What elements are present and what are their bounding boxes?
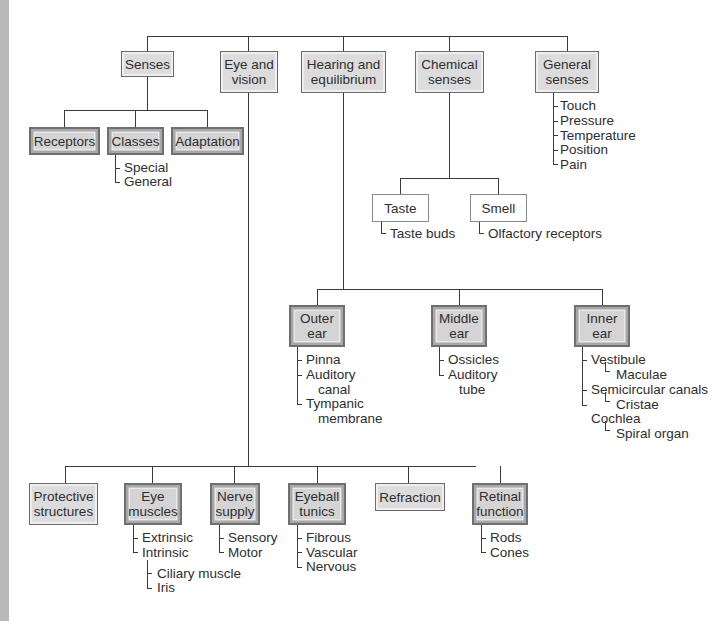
node-label: Eye andvision bbox=[224, 57, 274, 87]
node-label: Nervesupply bbox=[215, 489, 254, 519]
item-pressure: Pressure bbox=[554, 113, 614, 128]
item-auditory-tube-cont: tube bbox=[459, 382, 485, 397]
node-label: Adaptation bbox=[175, 134, 240, 149]
node-label: Senses bbox=[125, 57, 170, 72]
left-page-edge bbox=[0, 0, 9, 621]
node-label: Chemicalsenses bbox=[421, 57, 477, 87]
node-label: Retinalfunction bbox=[476, 489, 523, 519]
node-senses: Senses bbox=[121, 51, 174, 77]
item-intrinsic: Intrinsic bbox=[142, 545, 189, 560]
item-temperature: Temperature bbox=[554, 128, 636, 143]
node-hearing-and-equilibrium: Hearing andequilibrium bbox=[301, 51, 386, 93]
item-tympanic-membrane-cont: membrane bbox=[318, 411, 383, 426]
item-olfactory-receptors: Olfactory receptors bbox=[488, 226, 602, 241]
node-label: Eyemuscles bbox=[128, 489, 178, 519]
item-taste-buds: Taste buds bbox=[390, 226, 455, 241]
item-iris: Iris bbox=[157, 580, 175, 595]
node-label: Smell bbox=[482, 201, 516, 216]
node-eyeball-tunics: Eyeballtunics bbox=[288, 483, 346, 525]
item-extrinsic: Extrinsic bbox=[142, 530, 193, 545]
item-rods: Rods bbox=[490, 530, 522, 545]
item-semicircular-canals: Semicircular canals bbox=[591, 382, 708, 397]
item-cones: Cones bbox=[490, 545, 529, 560]
node-label: Classes bbox=[111, 134, 159, 149]
node-label: Taste bbox=[384, 201, 416, 216]
node-nerve-supply: Nervesupply bbox=[210, 483, 260, 525]
node-label: Receptors bbox=[34, 134, 96, 149]
item-ossicles: Ossicles bbox=[448, 352, 499, 367]
node-label: Outerear bbox=[300, 311, 334, 341]
node-chemical-senses: Chemicalsenses bbox=[415, 51, 484, 93]
item-auditory-tube: Auditory bbox=[448, 367, 498, 382]
node-inner-ear: Innerear bbox=[574, 305, 630, 347]
node-label: Innerear bbox=[587, 311, 618, 341]
item-motor: Motor bbox=[228, 545, 263, 560]
node-receptors: Receptors bbox=[29, 127, 100, 155]
item-special: Special bbox=[124, 160, 168, 175]
node-label: Eyeballtunics bbox=[295, 489, 339, 519]
item-auditory-canal: Auditory bbox=[306, 367, 356, 382]
item-pinna: Pinna bbox=[306, 352, 341, 367]
item-ciliary-muscle: Ciliary muscle bbox=[157, 566, 241, 581]
node-label: Refraction bbox=[379, 490, 441, 505]
node-smell: Smell bbox=[470, 194, 527, 222]
node-label: Middleear bbox=[439, 311, 479, 341]
item-pain: Pain bbox=[554, 157, 587, 172]
item-nervous: Nervous bbox=[306, 559, 356, 574]
node-eye-muscles: Eyemuscles bbox=[124, 483, 182, 525]
item-cochlea: Cochlea bbox=[591, 411, 641, 426]
item-spiral-organ: Spiral organ bbox=[616, 426, 689, 441]
item-fibrous: Fibrous bbox=[306, 530, 351, 545]
item-position: Position bbox=[554, 142, 608, 157]
node-taste: Taste bbox=[372, 194, 429, 222]
item-touch: Touch bbox=[554, 98, 596, 113]
item-cristae: Cristae bbox=[616, 397, 659, 412]
item-maculae: Maculae bbox=[616, 367, 667, 382]
node-protective-structures: Protectivestructures bbox=[29, 483, 98, 525]
node-label: Hearing andequilibrium bbox=[307, 57, 381, 87]
item-vestibule: Vestibule bbox=[591, 352, 646, 367]
node-middle-ear: Middleear bbox=[431, 305, 487, 347]
node-label: Protectivestructures bbox=[33, 489, 93, 519]
node-classes: Classes bbox=[107, 127, 164, 155]
node-retinal-function: Retinalfunction bbox=[472, 483, 528, 525]
node-outer-ear: Outerear bbox=[289, 305, 345, 347]
node-label: Generalsenses bbox=[543, 57, 591, 87]
item-auditory-canal-cont: canal bbox=[318, 382, 350, 397]
node-adaptation: Adaptation bbox=[171, 127, 244, 155]
item-vascular: Vascular bbox=[306, 545, 358, 560]
node-general-senses: Generalsenses bbox=[535, 51, 599, 93]
item-tympanic-membrane: Tympanic bbox=[306, 396, 364, 411]
node-eye-and-vision: Eye andvision bbox=[220, 51, 278, 93]
item-sensory: Sensory bbox=[228, 530, 278, 545]
item-general: General bbox=[124, 174, 172, 189]
node-refraction: Refraction bbox=[375, 483, 445, 511]
